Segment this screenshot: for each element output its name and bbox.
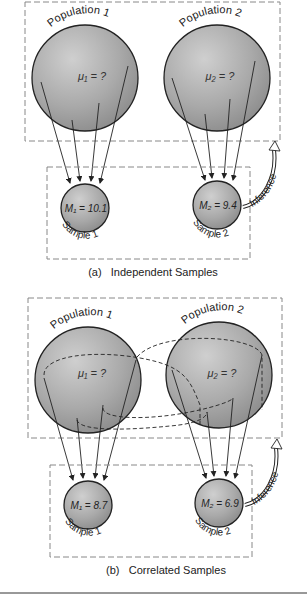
inference-arrow: Inference	[243, 141, 280, 209]
population-1: Population 1 μ₁ = ?	[35, 305, 141, 433]
population-2-parameter: μ₂ = ?	[205, 70, 236, 82]
sample-2-statistic: M₂ = 9.4	[199, 200, 237, 211]
sample-2: M₂ = 6.9 Sample 2	[193, 479, 243, 537]
inference-arrow: Inference	[245, 439, 282, 507]
panel-independent-samples: Population 1 μ₁ = ? Population 2 μ₂ = ?	[25, 2, 280, 278]
sample-2-statistic: M₂ = 6.9	[201, 498, 239, 509]
caption-a: (a) Independent Samples	[88, 266, 218, 278]
population-1-parameter: μ₁ = ?	[77, 70, 107, 82]
sample-2: M₂ = 9.4 Sample 2	[191, 181, 241, 239]
sample-1: M₁ = 10.1 Sample 1	[60, 184, 109, 241]
diagram-canvas: Population 1 μ₁ = ? Population 2 μ₂ = ?	[0, 0, 307, 600]
population-2-parameter: μ₂ = ?	[207, 367, 238, 379]
inference-label: Inference	[248, 172, 279, 209]
population-1-parameter: μ₁ = ?	[77, 367, 107, 379]
sample-1-statistic: M₁ = 10.1	[65, 203, 107, 214]
sample-1: M₁ = 8.7 Sample 1	[63, 481, 112, 538]
population-2: Population 2 μ₂ = ?	[166, 300, 272, 428]
caption-b: (b) Correlated Samples	[106, 564, 226, 576]
population-1: Population 1 μ₁ = ?	[32, 3, 138, 131]
svg-text:Inference: Inference	[248, 172, 279, 209]
panel-correlated-samples: Population 1 μ₁ = ? Population 2 μ₂ = ?	[28, 298, 282, 576]
sample-1-statistic: M₁ = 8.7	[71, 500, 108, 511]
inference-label: Inference	[250, 470, 281, 507]
svg-text:Inference: Inference	[250, 470, 281, 507]
